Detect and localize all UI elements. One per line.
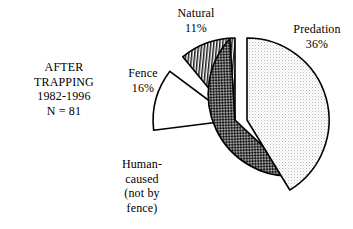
pie-chart-figure: AFTER TRAPPING 1982-1996 N = 81 [0,0,353,229]
slice-label-fence-percent: 16% [112,81,174,96]
slice-label-predation: Predation 36% [282,22,352,51]
slice-label-human-line2: caused [104,172,180,187]
slice-label-fence: Fence 16% [112,66,174,95]
slice-label-predation-percent: 36% [282,37,352,52]
slice-label-human-caused: Human- caused (not by fence) [104,157,180,215]
slice-label-predation-name: Predation [282,22,352,37]
slice-label-human-line1: Human- [104,157,180,172]
slice-label-fence-name: Fence [112,66,174,81]
slice-label-natural-percent: 11% [160,21,232,36]
slice-label-human-line3: (not by [104,186,180,201]
slice-label-natural: Natural 11% [160,6,232,35]
slice-label-natural-name: Natural [160,6,232,21]
slice-label-human-line4: fence) [104,201,180,216]
